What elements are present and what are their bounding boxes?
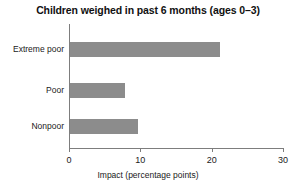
x-tick-mark-20	[212, 148, 213, 152]
x-tick-label-0: 0	[66, 155, 71, 165]
x-axis-title: Impact (percentage points)	[0, 170, 296, 180]
bar-extreme-poor	[70, 42, 220, 57]
x-tick-label-20: 20	[207, 155, 217, 165]
bar-fill	[70, 83, 125, 98]
chart-title: Children weighed in past 6 months (ages …	[0, 4, 296, 16]
bar-chart-figure: Children weighed in past 6 months (ages …	[0, 0, 296, 184]
x-tick-label-10: 10	[135, 155, 145, 165]
x-tick-label-30: 30	[278, 155, 288, 165]
category-label-extreme-poor: Extreme poor	[0, 42, 64, 57]
x-tick-mark-0	[69, 148, 70, 152]
bar-poor	[70, 83, 125, 98]
category-label-nonpoor: Nonpoor	[0, 119, 64, 134]
category-label-poor: Poor	[0, 83, 64, 98]
plot-area: 0102030	[69, 24, 283, 148]
bar-fill	[70, 119, 138, 134]
x-tick-mark-10	[140, 148, 141, 152]
bar-fill	[70, 42, 220, 57]
bar-nonpoor	[70, 119, 138, 134]
x-axis-line	[69, 148, 283, 149]
x-tick-mark-30	[283, 148, 284, 152]
